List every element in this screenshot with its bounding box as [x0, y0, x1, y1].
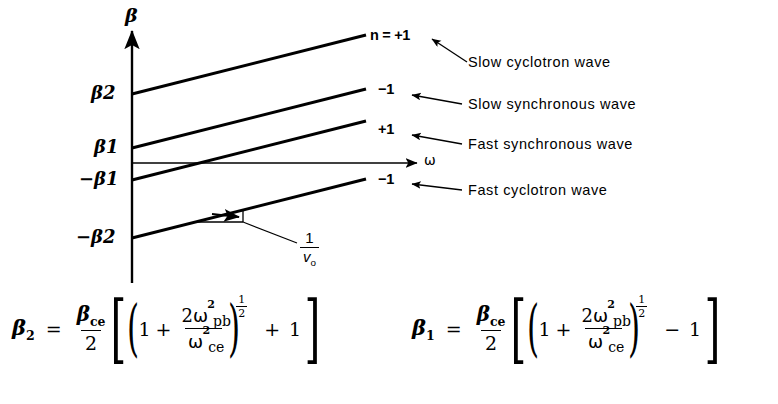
- beta1-omega-num-symbol: ω2: [593, 306, 608, 325]
- slope-leader-line: [243, 222, 297, 243]
- beta1-equation-equals: =: [446, 318, 462, 340]
- beta2-equation-lhs-sub: 2: [26, 328, 35, 343]
- beta1-prefactor-num-sub: ce: [490, 314, 505, 329]
- slope-numerator: 1: [300, 230, 319, 247]
- beta2-omega-den-symbol: ω2: [188, 332, 203, 351]
- omega-axis-label: ω: [424, 152, 436, 168]
- y-tick-beta1-positive: β1: [94, 136, 118, 157]
- y-tick-beta1-negative: −β1: [79, 168, 119, 189]
- beta1-inner-one: 1: [538, 318, 550, 340]
- beta2-equation-prefactor-numerator: βce: [73, 304, 110, 330]
- beta2-tail-one: 1: [289, 318, 301, 340]
- y-tick-beta2-negative-text: −β2: [76, 226, 116, 247]
- beta1-exponent-half: 1 2: [636, 294, 647, 319]
- y-tick-beta2-negative: −β2: [76, 226, 116, 247]
- beta1-omega-num-coeff: 2: [581, 305, 592, 326]
- beta1-equation-lhs-sub: 1: [426, 328, 435, 343]
- beta-axis-label: β: [125, 4, 138, 26]
- beta1-left-paren: (: [527, 308, 539, 349]
- beta2-equation-equals: =: [46, 318, 62, 340]
- beta2-equation-lhs-base: β: [12, 315, 26, 340]
- beta1-right-square-bracket: ]: [705, 306, 721, 352]
- beta2-prefactor-num-base: β: [77, 302, 90, 326]
- mode-label-fast-cyclotron: −1: [378, 171, 394, 187]
- beta2-inner-plus: +: [156, 318, 172, 340]
- beta2-omega-ratio-denominator: ω2ce: [185, 328, 222, 353]
- wave-line-fast-synchronous: [132, 121, 366, 180]
- mode-label-slow-cyclotron: n = +1: [370, 27, 410, 43]
- beta1-omega-den-symbol: ω2: [588, 332, 603, 351]
- annotation-arrow-slow-cyclotron: [432, 39, 467, 62]
- beta2-prefactor-num-sub: ce: [90, 314, 105, 329]
- wave-name-fast-cyclotron: Fast cyclotron wave: [468, 182, 608, 198]
- y-tick-beta1-positive-text: β1: [94, 136, 118, 157]
- beta2-omega-num-sup: 2: [207, 299, 215, 311]
- wave-line-slow-synchronous: [132, 89, 366, 148]
- annotation-arrow-fast-synchronous: [412, 135, 462, 144]
- beta2-right-square-bracket: ]: [305, 306, 321, 352]
- slope-denominator-base: v: [303, 248, 311, 265]
- y-tick-beta1-negative-text: −β1: [79, 168, 119, 189]
- beta2-omega-den-base: ω: [188, 331, 203, 352]
- beta1-equation-lhs-base: β: [412, 315, 426, 340]
- beta2-equation: β2 = βce 2 [ ( 1 + 2ω2pb ω2ce ) 1 2 + 1: [12, 304, 322, 353]
- annotation-arrow-fast-cyclotron: [412, 184, 462, 190]
- beta2-omega-den-sub: ce: [208, 339, 224, 355]
- slope-value-label: 1 vo: [300, 230, 319, 268]
- beta1-omega-den-sub: ce: [608, 339, 624, 355]
- beta1-omega-den-sup: 2: [603, 325, 611, 337]
- beta1-equation-prefactor: βce 2: [473, 304, 510, 353]
- wave-name-slow-cyclotron: Slow cyclotron wave: [468, 54, 611, 70]
- wave-name-fast-synchronous: Fast synchronous wave: [468, 136, 633, 152]
- mode-label-fast-synchronous: +1: [378, 121, 394, 137]
- beta2-equation-prefactor: βce 2: [73, 304, 110, 353]
- mode-label-slow-synchronous: −1: [378, 81, 394, 97]
- beta2-omega-den-sup: 2: [203, 325, 211, 337]
- beta2-inner-one: 1: [138, 318, 150, 340]
- beta1-prefactor-num-base: β: [477, 302, 490, 326]
- beta2-left-square-bracket: [: [111, 306, 127, 352]
- beta1-equation: β1 = βce 2 [ ( 1 + 2ω2pb ω2ce ) 1 2 − 1: [412, 304, 722, 353]
- beta2-exponent-denominator: 2: [236, 306, 247, 319]
- slope-denominator: vo: [300, 247, 319, 268]
- beta1-tail-one: 1: [689, 318, 701, 340]
- beta1-equation-prefactor-numerator: βce: [473, 304, 510, 330]
- beta1-omega-den-base: ω: [588, 331, 603, 352]
- beta2-exponent-half: 1 2: [236, 294, 247, 319]
- beta2-equation-prefactor-denominator: 2: [81, 330, 101, 353]
- wave-line-fast-cyclotron: [132, 179, 366, 238]
- beta1-left-square-bracket: [: [511, 306, 527, 352]
- beta2-omega-ratio: 2ω2pb ω2ce: [178, 305, 228, 353]
- beta1-exponent-denominator: 2: [636, 306, 647, 319]
- dispersion-diagram-figure: β ω β2 β1 −β1 −β2 1 vo n = +1 −1 +1 −1 S…: [0, 0, 778, 404]
- beta2-omega-num-base: ω: [193, 305, 208, 326]
- slope-denominator-sub: o: [311, 257, 317, 268]
- beta2-tail-sign: +: [264, 318, 280, 340]
- beta2-exponent-numerator: 1: [236, 294, 247, 306]
- beta1-equation-prefactor-denominator: 2: [481, 330, 501, 353]
- beta1-omega-num-base: ω: [593, 305, 608, 326]
- beta1-tail-sign: −: [664, 318, 680, 340]
- beta2-omega-num-symbol: ω2: [193, 306, 208, 325]
- wave-line-slow-cyclotron: [132, 35, 366, 94]
- beta1-equation-lhs: β1: [412, 315, 435, 343]
- beta2-equation-lhs: β2: [12, 315, 35, 343]
- beta1-exponent-numerator: 1: [636, 294, 647, 306]
- beta1-omega-ratio-denominator: ω2ce: [585, 328, 622, 353]
- annotation-arrow-slow-synchronous: [412, 95, 462, 104]
- beta1-omega-num-sup: 2: [607, 299, 615, 311]
- beta2-omega-num-coeff: 2: [181, 305, 192, 326]
- beta2-left-paren: (: [127, 308, 139, 349]
- y-tick-beta2-positive-text: β2: [91, 82, 115, 103]
- beta1-omega-ratio: 2ω2pb ω2ce: [578, 305, 628, 353]
- y-tick-beta2-positive: β2: [91, 82, 115, 103]
- beta1-inner-plus: +: [556, 318, 572, 340]
- wave-name-slow-synchronous: Slow synchronous wave: [468, 96, 636, 112]
